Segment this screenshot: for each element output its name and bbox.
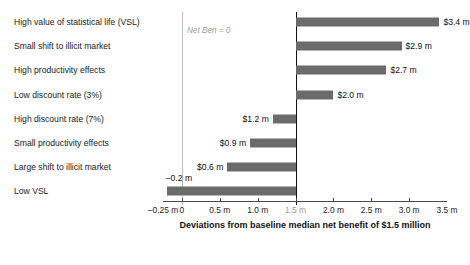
bar xyxy=(250,139,295,148)
bar-value-label: $2.9 m xyxy=(406,41,432,51)
bar xyxy=(167,187,296,196)
category-label: Low VSL xyxy=(14,186,48,196)
bar xyxy=(227,163,295,172)
bar-value-label: –0.2 m xyxy=(166,173,192,183)
bar-value-label: $2.0 m xyxy=(337,90,363,100)
x-axis-tick-label: 0 xyxy=(180,205,185,215)
bar-value-label: $1.2 m xyxy=(243,114,269,124)
bar xyxy=(296,18,440,27)
x-axis-tick-label: 3.5 m xyxy=(437,205,458,215)
x-axis-tick-label: 2.5 m xyxy=(361,205,382,215)
x-axis-tick xyxy=(220,198,221,201)
x-axis-tick xyxy=(182,198,183,201)
category-label: Small productivity effects xyxy=(14,138,109,148)
x-axis-title: Deviations from baseline median net bene… xyxy=(179,220,430,230)
category-label: High productivity effects xyxy=(14,65,105,75)
bar-value-label: $0.6 m xyxy=(197,162,223,172)
bar xyxy=(273,114,296,123)
x-axis-tick-label: 2.0 m xyxy=(323,205,344,215)
x-axis-tick-label: –0.25 m xyxy=(148,205,178,215)
x-axis-line xyxy=(163,201,447,202)
x-axis-tick xyxy=(296,198,297,201)
x-axis-tick-label: 1.5 m xyxy=(285,205,306,215)
category-label: Small shift to illicit market xyxy=(14,41,110,51)
category-label: Low discount rate (3%) xyxy=(14,90,102,100)
x-axis-tick xyxy=(258,198,259,201)
bar xyxy=(296,90,334,99)
category-label: Large shift to illicit market xyxy=(14,162,111,172)
bar-value-label: $3.4 m xyxy=(443,17,469,27)
x-axis-tick-label: 1.0 m xyxy=(247,205,268,215)
x-axis-tick xyxy=(371,198,372,201)
x-axis-tick xyxy=(409,198,410,201)
bar-value-label: $0.9 m xyxy=(220,138,246,148)
x-axis-tick xyxy=(333,198,334,201)
plot-area: Net Ben = 0 $3.4 m$2.9 m$2.7 m$2.0 m$1.2… xyxy=(163,12,447,215)
bar xyxy=(296,66,387,75)
x-axis-tick-label: 0.5 m xyxy=(209,205,230,215)
x-axis-tick-label: 3.0 m xyxy=(399,205,420,215)
category-label: High value of statistical life (VSL) xyxy=(14,17,140,27)
zero-reference-annotation: Net Ben = 0 xyxy=(187,26,230,35)
bar xyxy=(296,42,402,51)
bar-value-label: $2.7 m xyxy=(390,65,416,75)
category-label: High discount rate (7%) xyxy=(14,114,104,124)
